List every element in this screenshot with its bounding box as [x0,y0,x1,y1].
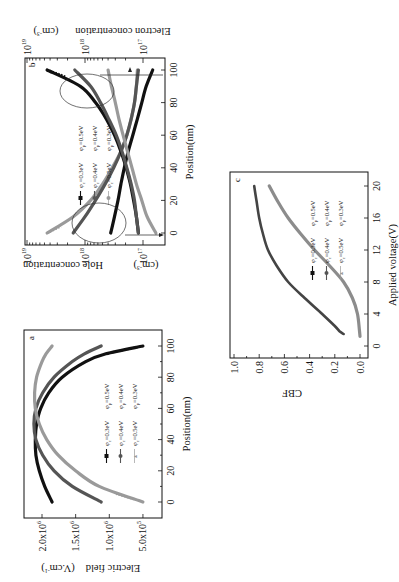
figure: 020406080100 101910191018101810171017 φc… [0,0,399,582]
legend-label-c: φc=0.4eV [117,421,126,446]
y-tick-label: 0.2 [329,361,340,374]
y-tick-label-right: 1019 [21,39,33,55]
panel-c-x-axis: 048121620 [364,181,382,349]
panel-b-carrier-concentration: 020406080100 101910191018101810171017 φc… [21,39,197,264]
panel-c-curves [254,186,360,336]
legend-label-p: φp=0.3eV [337,200,346,226]
legend-label-c: φc=0.3eV [77,163,86,188]
electric-field-label: Electric field [85,563,140,574]
circle-marker-icon [119,454,123,458]
y-tick-label: 1.5x106 [69,521,81,552]
electric-field-curve-2 [34,346,101,502]
panel-b-right-ylabel: Electron concentration (cm-3) [33,25,171,37]
legend-label-c: φc=0.3eV [103,421,112,446]
legend-label-c: φc=0.5eV [337,238,346,263]
x-tick-label: 40 [168,163,179,173]
panel-a-x-axis: 020406080100 [158,339,176,505]
legend-label-p: φp=0.4eV [323,200,332,226]
panel-a-y-axis: 2.0x1061.5x1061.0x1065.0x105 [36,514,149,552]
legend-label-p: φp=0.5eV [77,125,86,151]
y-tick-label: 5.0x105 [136,521,148,552]
hole-concentration-unit: (cm-3) [133,259,158,271]
panel-c-cbf: 048121620 0.00.20.40.60.81.0 φc=0.3eVφp=… [229,172,399,399]
legend-item: ▴φc=0.5eVφp=0.3eV [131,383,140,463]
x-tick-label: 4 [371,312,382,317]
hole-concentration-label: Hole concentration [22,260,103,271]
legend-item: φc=0.3eVφp=0.5eV [77,125,86,205]
triangle-marker-icon: ▴ [338,272,344,275]
legend-label-p: φp=0.4eV [91,125,100,151]
panel-c-ylabel: CBF [282,388,302,399]
panel-c-legend: φc=0.3eVφp=0.5eVφc=0.4eVφp=0.4eV▴φc=0.5e… [309,200,346,280]
x-tick-label: 8 [371,280,382,285]
panel-a-xlabel: Position(nm) [181,396,193,451]
electric-field-curve-1 [35,346,143,502]
triangle-marker-icon: ▴ [132,455,138,458]
square-marker-icon [311,271,315,275]
x-tick-label: 60 [168,130,179,140]
panel-b-electron-arrowhead [128,67,132,72]
panel-a-label: a [26,336,36,340]
panel-a-legend: φc=0.3eVφp=0.5eVφc=0.4eVφp=0.4eV▴φc=0.5e… [103,383,140,463]
panel-b-x-axis: 020406080100 [161,63,179,236]
panel-b-left-ylabel: Hole concentration (cm-3) [22,259,158,271]
x-tick-label: 40 [165,435,176,445]
legend-item: φc=0.4eVφp=0.4eV [117,383,126,463]
x-tick-label: 60 [165,403,176,413]
legend-label-p: φp=0.4eV [117,383,126,409]
y-tick-label-right: 1018 [79,39,91,55]
x-tick-label: 80 [168,98,179,108]
x-tick-label: 0 [165,500,176,505]
panel-c-label: c [232,178,242,182]
y-tick-label: 0.0 [355,361,366,374]
electron-concentration-label: Electron concentration [75,26,171,37]
electric-field-unit: (V.cm-1) [41,562,75,574]
x-tick-label: 12 [371,245,382,255]
y-tick-label: 0.8 [254,361,265,374]
circle-marker-icon [107,196,111,200]
x-tick-label: 20 [371,181,382,191]
legend-label-p: φp=0.3eV [131,383,140,409]
panel-b-label: b [27,62,37,67]
y-tick-label: 0.6 [279,361,290,374]
legend-item: φc=0.3eVφp=0.5eV [309,200,318,280]
x-tick-label: 20 [165,466,176,476]
x-tick-label: 80 [165,372,176,382]
legend-label-c: φc=0.4eV [91,163,100,188]
legend-label-c: φc=0.5eV [131,421,140,446]
panel-b-curves [47,70,156,233]
square-marker-icon [105,454,109,458]
y-tick-label: 1.0x106 [103,521,115,552]
panel-c-frame [230,172,368,358]
x-tick-label: 20 [168,195,179,205]
panel-c-xlabel: Applied voltage(V) [387,224,399,306]
panel-a-curves [34,346,143,502]
legend-label-p: φp=0.5eV [103,383,112,409]
concentration-curve-3 [111,70,153,233]
x-tick-label: 0 [168,231,179,236]
y-tick-label: 1.0 [229,361,240,374]
panel-b-xlabel: Position(nm) [184,124,196,179]
x-tick-label: 100 [168,63,179,78]
x-tick-label: 16 [371,213,382,223]
panel-a-ylabel: Electric field (V.cm-1) [41,562,141,574]
y-tick-label: 2.0x106 [36,521,48,552]
legend-label-p: φp=0.5eV [309,200,318,226]
y-tick-label: 0.4 [304,361,315,374]
panel-c-y-axis: 0.00.20.40.60.81.0 [229,354,366,374]
electric-field-curve-3 [35,346,143,502]
circle-marker-icon [325,271,329,275]
electron-concentration-unit: (cm-3) [33,25,58,37]
y-tick-label-right: 1017 [137,39,149,55]
panel-a-electric-field: 020406080100 2.0x1061.5x1061.0x1065.0x10… [24,330,193,552]
square-marker-icon [79,196,83,200]
x-tick-label: 100 [165,339,176,354]
x-tick-label: 0 [371,344,382,349]
legend-item: ▴φc=0.5eVφp=0.3eV [337,200,346,280]
panel-b-hole-arrowhead [159,233,164,237]
circle-marker-icon [93,196,97,200]
legend-item: φc=0.3eVφp=0.5eV [103,383,112,463]
